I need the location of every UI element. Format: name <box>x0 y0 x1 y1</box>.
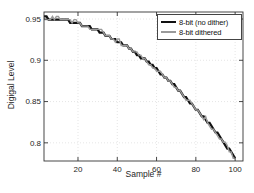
legend-label-dithered: 8-bit dithered <box>179 28 221 37</box>
x-axis-label: Sample # <box>44 169 243 179</box>
y-tick-label: 0.8 <box>30 139 42 148</box>
legend: 8-bit (no dither) 8-bit dithered <box>157 14 242 40</box>
y-tick-label: 0.85 <box>25 97 41 106</box>
legend-label-no-dither: 8-bit (no dither) <box>179 18 228 27</box>
y-tick-label: 0.9 <box>30 56 42 65</box>
y-axis-label: Digigal Level <box>6 61 16 110</box>
dithered-line-sample <box>161 31 176 33</box>
y-tick-label: 0.95 <box>25 15 41 24</box>
no-dither-line-sample <box>161 21 176 24</box>
legend-entry-dithered: 8-bit dithered <box>161 27 239 37</box>
figure: 204060801000.950.90.850.8 Digigal Level … <box>0 0 254 193</box>
legend-entry-no-dither: 8-bit (no dither) <box>161 17 239 27</box>
